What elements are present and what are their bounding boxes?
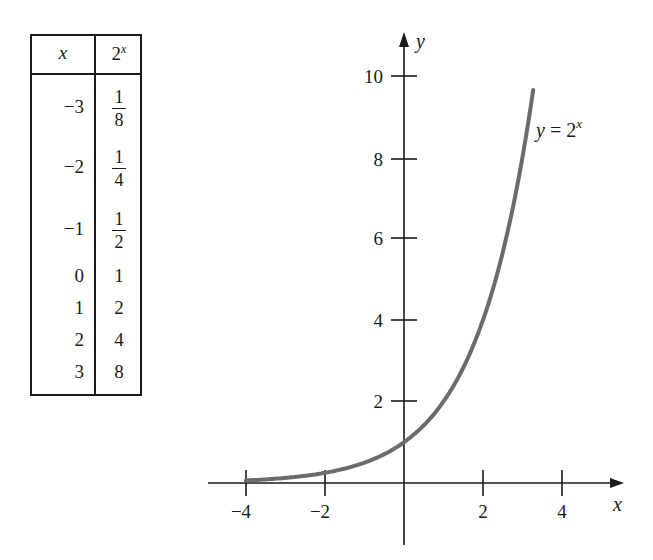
x-tick-label: 2 — [478, 501, 488, 522]
y-axis-label: y — [414, 30, 425, 53]
exponential-curve — [246, 90, 533, 481]
x-tick-label: −2 — [310, 501, 330, 522]
y-tick-label: 6 — [374, 228, 384, 249]
y-axis-arrow-icon — [399, 32, 409, 47]
y-tick-label: 8 — [374, 149, 384, 170]
x-tick-label: −4 — [231, 501, 252, 522]
x-tick-label: 4 — [557, 501, 567, 522]
y-tick-label: 10 — [364, 66, 383, 87]
x-axis-label: x — [612, 493, 622, 515]
curve-label: y = 2x — [534, 116, 582, 142]
y-tick-label: 2 — [374, 391, 384, 412]
x-axis-arrow-icon — [610, 478, 624, 488]
exponential-graph: −4 −2 2 4 2 4 6 8 10 x y y = 2x — [0, 0, 653, 560]
y-tick-label: 4 — [374, 310, 384, 331]
